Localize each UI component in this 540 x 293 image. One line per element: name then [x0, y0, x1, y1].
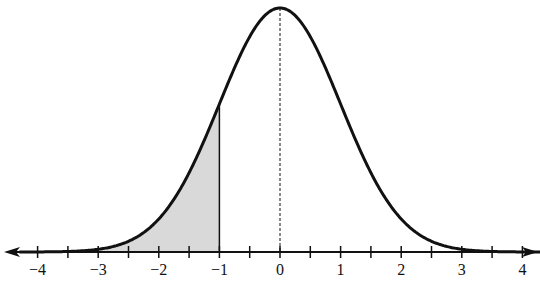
x-tick-label: −2	[150, 261, 167, 278]
x-tick-label: −3	[90, 261, 107, 278]
x-tick-label: 4	[518, 261, 526, 278]
shaded-area	[38, 104, 220, 252]
x-tick-label: 1	[337, 261, 345, 278]
x-tick-label: 3	[458, 261, 466, 278]
x-tick-labels: −4−3−2−101234	[29, 261, 526, 278]
x-tick-label: 2	[397, 261, 405, 278]
x-tick-label: 0	[276, 261, 284, 278]
shaded-left-tail	[38, 104, 220, 252]
normal-distribution-chart: −4−3−2−101234	[0, 0, 540, 293]
reference-lines	[219, 8, 280, 252]
x-tick-label: −1	[211, 261, 228, 278]
x-tick-label: −4	[29, 261, 46, 278]
